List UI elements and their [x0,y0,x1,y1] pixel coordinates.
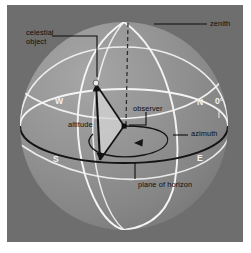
cardinal-south: S [53,154,59,164]
cardinal-north: N [197,97,203,107]
label-celestial-object: celestial object [26,29,54,46]
diagram-panel: celestial object zenith observer altitud… [7,5,243,242]
label-observer: observer [133,105,163,114]
cardinal-east: E [197,153,203,163]
label-plane-of-horizon: plane of horizon [138,181,192,190]
celestial-object-marker [93,80,99,86]
label-azimuth-origin: 0° [215,96,223,106]
observer-marker [122,124,127,129]
label-celestial-object-line2: object [26,37,46,46]
label-altitude: altitude [68,121,93,130]
cardinal-west: W [55,96,63,106]
figure-root: celestial object zenith observer altitud… [0,0,251,253]
label-zenith: zenith [210,20,230,29]
label-azimuth: azimuth [191,130,218,139]
